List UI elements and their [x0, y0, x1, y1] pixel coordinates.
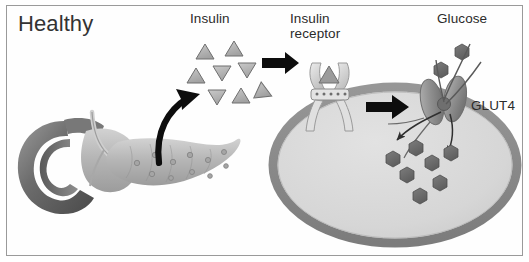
- insulin-triangle: [213, 66, 231, 81]
- insulin-triangle: [187, 68, 205, 83]
- page-title: Healthy: [18, 12, 93, 37]
- duodenum-inner-lumen: [40, 139, 78, 196]
- label-insulin-receptor: Insulin receptor: [290, 11, 340, 41]
- label-glut4: GLUT4: [471, 98, 515, 113]
- insulin-triangle: [208, 90, 226, 105]
- insulin-triangle: [225, 41, 243, 56]
- glucose-hexagon: [433, 175, 447, 191]
- label-insulin: Insulin: [190, 11, 230, 26]
- figure-root: Healthy Insulin Insulin receptor Glucose…: [0, 0, 529, 262]
- bound-insulin-triangle: [319, 66, 339, 83]
- label-glucose: Glucose: [437, 11, 487, 26]
- pancreas-illustration: [18, 112, 241, 214]
- insulin-triangle: [252, 81, 271, 98]
- insulin-triangle: [232, 88, 250, 103]
- glucose-extracellular: [434, 44, 469, 78]
- insulin-triangle: [196, 44, 214, 59]
- insulin-to-receptor-arrow: [262, 52, 299, 74]
- glucose-hexagon: [444, 145, 458, 161]
- receptor-arm-right: [334, 63, 349, 90]
- glucose-hexagon: [413, 188, 427, 204]
- glucose-hexagon: [409, 140, 423, 156]
- diagram-graphics: [0, 0, 529, 262]
- insulin-triangle: [238, 63, 256, 78]
- glucose-hexagon: [386, 151, 400, 167]
- insulin-molecule-cluster: [187, 41, 272, 105]
- glucose-hexagon: [400, 167, 414, 183]
- glucose-hexagon: [425, 155, 439, 171]
